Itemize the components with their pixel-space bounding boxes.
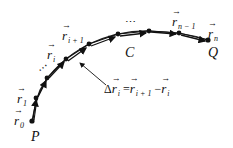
- label-r1: r1: [17, 90, 27, 108]
- label-point-p: P: [31, 130, 40, 144]
- label-rn: rn: [208, 25, 218, 43]
- delta-formula: Δri =ri + 1 −ri: [104, 82, 170, 98]
- ellipsis-upper: ⋯: [125, 17, 135, 28]
- curve-partition-diagram: r0 P r1 ⋯ ri ri + 1 ⋯ rn − 1 rn C Q Δri …: [0, 0, 233, 148]
- label-ri-plus-1: ri + 1: [62, 27, 84, 45]
- chord-vectors-outer: [34, 31, 208, 120]
- label-rn-minus-1: rn − 1: [172, 13, 195, 31]
- label-ri: ri: [47, 46, 55, 64]
- label-curve-c: C: [125, 46, 134, 60]
- label-point-q: Q: [208, 46, 218, 60]
- delta-pointer-arrow: [80, 63, 106, 85]
- label-r0: r0: [14, 112, 24, 130]
